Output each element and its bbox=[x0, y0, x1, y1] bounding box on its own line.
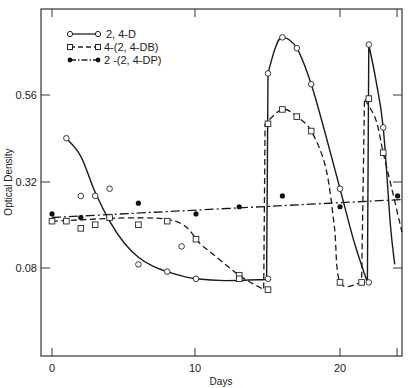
series-line-0 bbox=[66, 37, 394, 282]
open-circle-point bbox=[366, 280, 372, 286]
open-square-point bbox=[280, 107, 286, 113]
y-ticks bbox=[41, 95, 402, 268]
x-tick-label-10: 10 bbox=[189, 362, 201, 374]
open-circle-point bbox=[179, 244, 185, 250]
open-square-point bbox=[265, 287, 271, 293]
line-chart: 0 10 20 0.56 0.32 0.08 Days Optical Dens… bbox=[0, 0, 409, 388]
series-curves bbox=[52, 37, 402, 289]
x-tick-label-0: 0 bbox=[49, 362, 55, 374]
open-circle-point bbox=[280, 35, 286, 41]
legend-label: 4-(2, 4-DB) bbox=[104, 41, 158, 53]
open-square-point bbox=[236, 276, 242, 282]
series-markers bbox=[49, 35, 400, 293]
y-tick-label-032: 0.32 bbox=[16, 176, 37, 188]
open-square-point bbox=[193, 236, 199, 242]
y-tick-label-056: 0.56 bbox=[16, 89, 37, 101]
filled-circle-point bbox=[78, 215, 83, 220]
open-circle-point bbox=[366, 42, 372, 48]
legend: 2, 4-D 4-(2, 4-DB) 2 -(2, 4-DP) bbox=[67, 28, 161, 66]
open-square-point bbox=[308, 128, 314, 134]
plot-frame bbox=[41, 9, 402, 356]
open-circle-marker-icon bbox=[95, 31, 100, 36]
x-tick-label-20: 20 bbox=[334, 362, 346, 374]
open-circle-point bbox=[78, 193, 84, 199]
open-circle-point bbox=[92, 193, 98, 199]
filled-circle-point bbox=[136, 201, 141, 206]
series-line-1 bbox=[52, 99, 402, 290]
legend-item-4-2-4-db: 4-(2, 4-DB) bbox=[68, 41, 159, 53]
open-circle-point bbox=[380, 125, 386, 131]
open-square-point bbox=[380, 150, 386, 156]
filled-circle-point bbox=[49, 211, 54, 216]
open-square-point bbox=[337, 280, 343, 286]
open-circle-point bbox=[136, 262, 142, 268]
legend-item-2-2-4-dp: 2 -(2, 4-DP) bbox=[68, 54, 162, 66]
open-circle-point bbox=[107, 186, 113, 192]
filled-circle-marker-icon bbox=[68, 58, 73, 63]
open-square-point bbox=[294, 114, 300, 120]
open-circle-point bbox=[193, 276, 199, 282]
open-circle-point bbox=[337, 186, 343, 192]
legend-item-2-4-d: 2, 4-D bbox=[67, 28, 136, 40]
open-circle-point bbox=[308, 81, 314, 87]
legend-label: 2, 4-D bbox=[106, 28, 136, 40]
open-square-point bbox=[107, 215, 113, 221]
open-square-marker-icon bbox=[68, 45, 73, 50]
filled-circle-point bbox=[237, 204, 242, 209]
open-square-point bbox=[164, 218, 170, 224]
y-axis-title: Optical Density bbox=[3, 148, 14, 215]
open-square-point bbox=[136, 222, 142, 228]
open-square-point bbox=[49, 218, 55, 224]
filled-circle-marker-icon bbox=[96, 58, 101, 63]
open-square-marker-icon bbox=[96, 45, 101, 50]
open-circle-point bbox=[294, 45, 300, 51]
open-circle-point bbox=[164, 269, 170, 275]
open-square-point bbox=[92, 222, 98, 228]
open-circle-point bbox=[265, 276, 271, 282]
filled-circle-point bbox=[395, 193, 400, 198]
legend-label: 2 -(2, 4-DP) bbox=[104, 54, 161, 66]
series-line-2 bbox=[52, 200, 402, 218]
open-square-point bbox=[366, 96, 372, 102]
filled-circle-point bbox=[193, 211, 198, 216]
open-square-point bbox=[359, 280, 365, 286]
open-circle-point bbox=[64, 135, 70, 141]
open-square-point bbox=[265, 121, 271, 127]
open-square-point bbox=[78, 226, 84, 232]
y-tick-label-008: 0.08 bbox=[16, 262, 37, 274]
x-axis-title: Days bbox=[210, 376, 233, 387]
filled-circle-point bbox=[337, 204, 342, 209]
open-circle-point bbox=[265, 71, 271, 77]
open-square-point bbox=[64, 218, 70, 224]
filled-circle-point bbox=[280, 193, 285, 198]
open-circle-marker-icon bbox=[67, 31, 72, 36]
